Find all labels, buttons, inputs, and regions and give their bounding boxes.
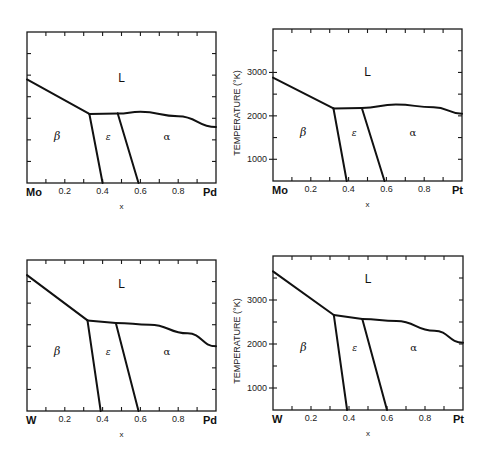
left-element-label: W	[26, 414, 37, 426]
panel-w-pt: 1000200030000.20.40.60.8WPtxTEMPERATURE …	[232, 256, 464, 438]
phase-label-liquid: L	[364, 65, 371, 79]
phase-boundary--boundary	[333, 108, 346, 181]
left-element-label: Mo	[272, 184, 288, 196]
phase-diagram-figure: 0.20.40.60.8MoPdxLβεα1000200030000.20.40…	[0, 0, 487, 454]
phase-label-epsilon: ε	[106, 347, 111, 357]
x-tick-label: 0.8	[418, 184, 431, 194]
phase-boundary-liquidus-	[27, 275, 87, 320]
plot-frame	[27, 32, 216, 183]
right-element-label: Pt	[452, 184, 463, 196]
y-tick-label: 2000	[247, 339, 267, 349]
y-tick-label: 1000	[247, 383, 267, 393]
y-tick-label: 3000	[247, 67, 267, 77]
phase-boundary--boundary	[87, 320, 100, 411]
phase-label-alpha: α	[410, 342, 417, 353]
panel-w-pd: 0.20.40.60.8WPdxLβεα	[26, 260, 217, 439]
phase-boundary--boundary	[116, 323, 139, 411]
right-element-label: Pd	[203, 186, 217, 198]
y-tick-label: 3000	[247, 295, 267, 305]
phase-boundary--boundary	[334, 315, 347, 410]
right-element-label: Pt	[453, 413, 464, 425]
panel-mo-pd: 0.20.40.60.8MoPdxLβεα	[26, 32, 217, 211]
phase-boundary--top	[334, 315, 363, 319]
phase-label-alpha: α	[163, 346, 170, 357]
x-tick-label: 0.2	[305, 184, 318, 194]
phase-boundary-liquidus-	[273, 271, 334, 315]
y-tick-label: 2000	[247, 111, 267, 121]
phase-boundary--boundary	[362, 108, 385, 181]
phase-label-liquid: L	[118, 277, 125, 291]
phase-label-beta: β	[299, 126, 306, 139]
x-tick-label: 0.8	[172, 186, 185, 196]
x-tick-label: 0.2	[59, 414, 72, 424]
x-tick-label: 0.2	[59, 186, 72, 196]
x-tick-label: 0.4	[96, 186, 109, 196]
panel-mo-pt: 1000200030000.20.40.60.8MoPtxTEMPERATURE…	[232, 29, 463, 209]
phase-boundary--top	[87, 320, 115, 323]
x-axis-label: x	[366, 429, 370, 438]
left-element-label: Mo	[26, 186, 42, 198]
phase-boundary-liquidus-	[362, 319, 463, 343]
x-tick-label: 0.8	[419, 413, 432, 423]
y-axis-label: TEMPERATURE (°K)	[232, 298, 242, 383]
x-tick-label: 0.4	[343, 413, 356, 423]
phase-label-alpha: α	[163, 131, 170, 142]
phase-label-epsilon: ε	[352, 343, 357, 353]
phase-label-beta: β	[299, 341, 306, 354]
phase-boundary-liquidus-	[118, 112, 216, 127]
phase-label-beta: β	[53, 130, 60, 143]
phase-label-epsilon: ε	[106, 132, 111, 142]
x-axis-label: x	[120, 202, 124, 211]
phase-boundary-liquidus-	[116, 323, 216, 346]
x-tick-label: 0.8	[172, 414, 185, 424]
phase-label-epsilon: ε	[352, 128, 357, 138]
phase-label-liquid: L	[365, 272, 372, 286]
phase-boundary--boundary	[89, 114, 102, 183]
x-tick-label: 0.6	[134, 186, 147, 196]
phase-boundary--boundary	[118, 114, 139, 183]
x-tick-label: 0.2	[305, 413, 318, 423]
phase-label-alpha: α	[409, 127, 416, 138]
phase-label-beta: β	[53, 345, 60, 358]
x-tick-label: 0.4	[342, 184, 355, 194]
x-tick-label: 0.6	[134, 414, 147, 424]
x-axis-label: x	[366, 200, 370, 209]
phase-boundary--boundary	[362, 319, 387, 410]
x-tick-label: 0.4	[96, 414, 109, 424]
y-tick-label: 1000	[247, 154, 267, 164]
x-tick-label: 0.6	[380, 184, 393, 194]
phase-boundary-liquidus-	[27, 79, 89, 114]
phase-boundary-liquidus-	[362, 105, 462, 114]
x-tick-label: 0.6	[381, 413, 394, 423]
phase-label-liquid: L	[118, 71, 125, 85]
right-element-label: Pd	[203, 414, 217, 426]
plot-frame	[273, 29, 462, 181]
y-axis-label: TEMPERATURE (°K)	[232, 70, 242, 155]
left-element-label: W	[272, 413, 283, 425]
x-axis-label: x	[120, 430, 124, 439]
phase-boundary-liquidus-	[273, 78, 333, 109]
